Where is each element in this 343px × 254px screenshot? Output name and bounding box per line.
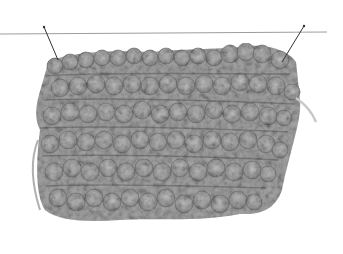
knitted-swatch [36,43,300,221]
pin-right [282,26,304,62]
pin-left [44,27,58,60]
hanging-line [0,32,327,34]
photo-scene: Grey textured crocheted/knitted loop-sti… [0,0,343,254]
swatch-photo [0,0,343,254]
